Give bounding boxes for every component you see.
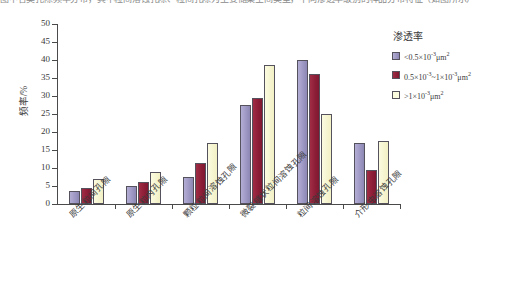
x-axis-tick-mark	[115, 205, 116, 209]
x-axis-tick-mark	[172, 205, 173, 209]
bar	[309, 74, 320, 204]
y-axis-tick-label: 0	[6, 199, 50, 208]
bar	[354, 143, 365, 204]
x-axis-tick-mark	[343, 205, 344, 209]
legend-label: 0.5×10-3~1×10-3μm2	[404, 69, 471, 83]
y-axis-tick-label: 50	[6, 19, 50, 28]
legend-title: 渗透率	[393, 31, 504, 43]
legend-label: >1×10-3μm2	[404, 88, 444, 102]
legend-entries: <0.5×10-3μm20.5×10-3~1×10-3μm2>1×10-3μm2	[392, 49, 504, 102]
y-axis-tick-label: 10	[6, 163, 50, 172]
x-axis-tick-mark	[286, 205, 287, 209]
legend-label: <0.5×10-3μm2	[404, 49, 450, 63]
top-clipped-caption: 图中各类孔隙频率分布，其中粒间溶蚀孔隙、粒间孔隙为主要储集空间类型，不同渗透率级…	[0, 0, 508, 11]
bar-chart-figure: 05101520253035404550 频率/% 原生粒间孔隙原生粒内孔隙颗粒…	[0, 11, 508, 303]
legend-swatch-icon	[392, 71, 400, 79]
y-axis-tick-label: 40	[6, 55, 50, 64]
legend-entry: <0.5×10-3μm2	[392, 49, 504, 63]
legend-swatch-icon	[392, 91, 400, 99]
legend-swatch-icon	[392, 52, 400, 60]
y-axis-tick-mark	[52, 204, 58, 205]
legend-entry: 0.5×10-3~1×10-3μm2	[392, 69, 504, 83]
x-axis-tick-mark	[229, 205, 230, 209]
y-axis-tick-label: 5	[6, 181, 50, 190]
bar	[297, 60, 308, 204]
legend: 渗透率 <0.5×10-3μm20.5×10-3~1×10-3μm2>1×10-…	[392, 31, 504, 108]
bar	[240, 105, 251, 204]
legend-entry: >1×10-3μm2	[392, 88, 504, 102]
y-axis-tick-label: 15	[6, 145, 50, 154]
x-axis-tick-mark	[400, 205, 401, 209]
y-axis-title: 频率/%	[19, 71, 29, 131]
y-axis-tick-label: 45	[6, 37, 50, 46]
